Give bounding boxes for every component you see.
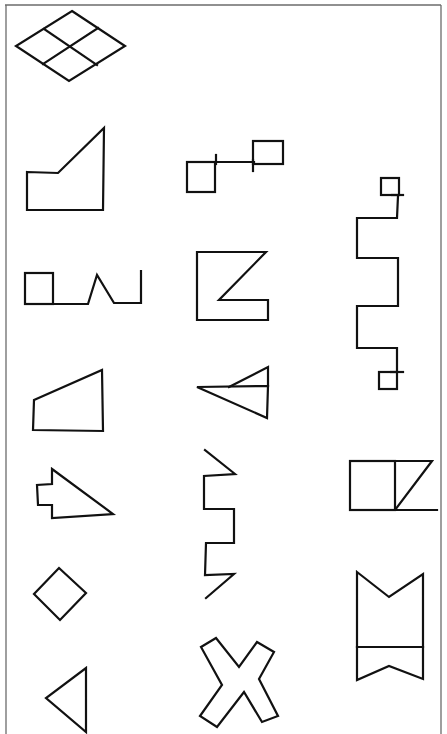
figure-rhombus-grid xyxy=(16,11,125,81)
figure-x-shape xyxy=(200,638,278,727)
figures-canvas xyxy=(0,0,447,734)
figure-bowtie-banner xyxy=(357,572,423,680)
figure-notched-square xyxy=(197,252,268,320)
figure-diamond xyxy=(34,568,86,620)
figure-nested-triangles xyxy=(197,367,268,418)
page-frame xyxy=(5,5,441,734)
figure-pentagon-slant xyxy=(27,128,104,210)
figure-arrow-tab xyxy=(37,469,113,518)
worksheet-page xyxy=(0,0,447,734)
figure-triangle-left xyxy=(46,668,86,732)
figure-meander-arrows xyxy=(204,450,235,598)
figure-meander-squares xyxy=(357,178,403,389)
figure-trapezoid xyxy=(33,370,103,431)
figure-square-zigzag xyxy=(25,271,141,304)
figure-square-triangle xyxy=(350,461,437,510)
figure-linked-squares xyxy=(187,141,283,192)
